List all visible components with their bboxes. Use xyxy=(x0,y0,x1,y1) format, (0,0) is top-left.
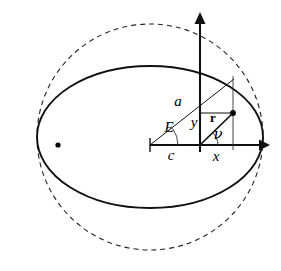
ordinate-label: y xyxy=(189,114,198,130)
semi-major-axis-label: a xyxy=(174,93,182,109)
orbit-ellipse xyxy=(37,66,263,208)
auxiliary-circle xyxy=(37,24,263,250)
radius-vector-label: r xyxy=(210,110,216,125)
empty-focus-dot xyxy=(55,142,60,147)
orbiting-body-point xyxy=(230,110,236,116)
center-focus-distance-label: c xyxy=(168,147,175,163)
true-anomaly-label: ν xyxy=(213,125,222,143)
abscissa-label: x xyxy=(212,148,220,164)
y-axis-arrowhead xyxy=(195,12,206,24)
orbit-diagram-figure: a E c y x r ν xyxy=(0,0,281,271)
orbit-diagram-canvas: a E c y x r ν xyxy=(0,0,281,271)
x-axis-arrowhead xyxy=(259,140,270,151)
eccentric-anomaly-label: E xyxy=(163,119,173,135)
